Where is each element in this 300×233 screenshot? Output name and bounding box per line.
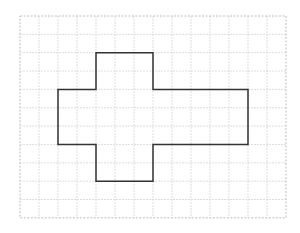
grid-diagram bbox=[0, 0, 300, 233]
grid-lines bbox=[20, 16, 286, 218]
